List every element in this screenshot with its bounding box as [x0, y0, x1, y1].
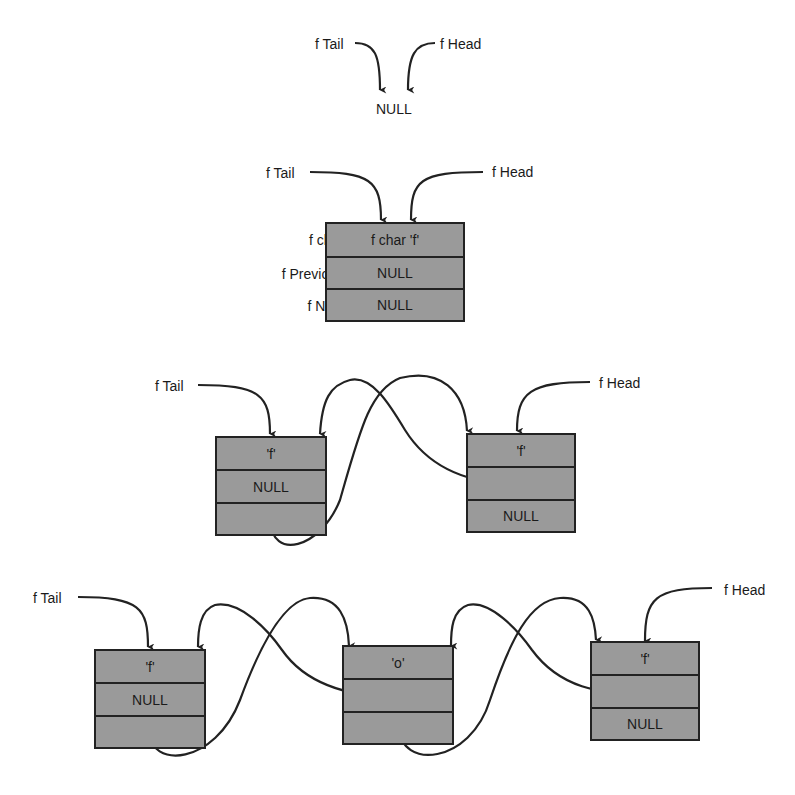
head-pointer-label: f Head: [440, 36, 481, 52]
list-node: 'f' NULL: [215, 436, 327, 536]
list-node: 'f' NULL: [590, 641, 700, 741]
node-previous-field: [592, 676, 698, 709]
tail-pointer-label: f Tail: [155, 378, 184, 394]
list-node: 'f' NULL: [94, 649, 206, 749]
head-pointer-label: f Head: [492, 164, 533, 180]
node-char-field: 'f': [468, 435, 574, 468]
list-node: f char 'f' NULL NULL: [325, 222, 465, 322]
node-next-field: [344, 713, 452, 743]
tail-pointer-label: f Tail: [266, 165, 295, 181]
null-label: NULL: [376, 101, 412, 117]
list-node: 'o': [342, 645, 454, 745]
node-char-field: 'f': [217, 438, 325, 471]
node-previous-field: [468, 468, 574, 501]
node-next-field: [217, 504, 325, 534]
node-char-field: f char 'f': [327, 224, 463, 258]
node-next-field: NULL: [468, 501, 574, 531]
node-next-field: NULL: [592, 709, 698, 739]
node-char-field: 'f': [96, 651, 204, 684]
node-next-field: NULL: [327, 290, 463, 320]
list-node: 'f' NULL: [466, 433, 576, 533]
head-pointer-label: f Head: [599, 375, 640, 391]
node-next-field: [96, 717, 204, 747]
node-char-field: 'f': [592, 643, 698, 676]
node-previous-field: NULL: [96, 684, 204, 717]
node-char-field: 'o': [344, 647, 452, 680]
tail-pointer-label: f Tail: [33, 590, 62, 606]
head-pointer-label: f Head: [724, 582, 765, 598]
node-previous-field: [344, 680, 452, 713]
node-previous-field: NULL: [327, 258, 463, 290]
tail-pointer-label: f Tail: [315, 36, 344, 52]
node-previous-field: NULL: [217, 471, 325, 504]
